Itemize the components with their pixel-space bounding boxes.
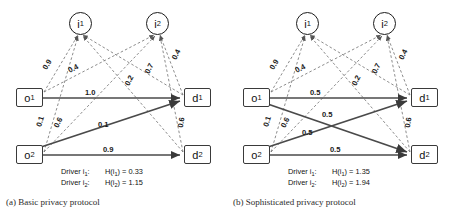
panel-a-driver-legend: Driver i1: H(i1) = 0.33 Driver i2: H(i2)… — [61, 167, 143, 188]
node-i2[interactable]: i2 — [373, 12, 396, 35]
node-i2-subscript: 2 — [157, 19, 161, 28]
node-o1-subscript: 1 — [257, 93, 261, 102]
weight-o2-d1: 0.1 — [98, 120, 108, 129]
panel-b-driver-legend: Driver i1: H(i1) = 1.35 Driver i2: H(i2)… — [288, 167, 370, 188]
legend-row: Driver i1: H(i1) = 0.33 — [61, 167, 143, 178]
node-i1-subscript: 1 — [80, 19, 84, 28]
legend-driver-2: Driver i2: — [61, 178, 105, 189]
weight-o2-d2: 0.9 — [103, 145, 113, 154]
node-d2[interactable]: d2 — [411, 145, 438, 164]
weight-o2-d1: 0.5 — [302, 128, 312, 137]
caption-panel-b: (b) Sophisticated privacy protocol — [233, 197, 356, 207]
weight-d2-i2: 0.6 — [403, 117, 414, 129]
weight-o1-d1: 1.0 — [85, 88, 95, 97]
weight-o1-d2: 0.5 — [322, 110, 332, 119]
node-i2[interactable]: i2 — [146, 12, 169, 35]
node-i1[interactable]: i1 — [69, 12, 92, 35]
edge-d1-i2 — [387, 35, 410, 95]
node-o2-subscript: 2 — [257, 150, 261, 159]
node-i1[interactable]: i1 — [296, 12, 319, 35]
node-o2[interactable]: o2 — [16, 145, 43, 164]
edge-d2-i1 — [83, 36, 183, 152]
panel-sophisticated-privacy-protocol: o1 o2 d1 d2 i1 i2 0.9 0.4 0.1 0.6 0.4 0.… — [227, 0, 454, 215]
edge-o2-i2 — [271, 36, 382, 152]
legend-driver-1: Driver i1: — [61, 167, 105, 178]
two-panel-privacy-protocol-figure: o1 o2 d1 d2 i1 i2 0.9 0.4 0.1 0.6 0.4 0.… — [0, 0, 454, 215]
node-o1[interactable]: o1 — [243, 88, 270, 107]
edge-o2-i2 — [44, 36, 155, 152]
node-o2[interactable]: o2 — [243, 145, 270, 164]
node-d2-subscript: 2 — [198, 150, 202, 159]
node-d2-subscript: 2 — [425, 150, 429, 159]
legend-row: Driver i1: H(i1) = 1.35 — [288, 167, 370, 178]
weight-d2-i2: 0.6 — [176, 117, 187, 129]
node-d2[interactable]: d2 — [184, 145, 211, 164]
legend-row: Driver i2: H(i2) = 1.15 — [61, 178, 143, 189]
edge-o1-i2 — [271, 35, 381, 92]
node-o1-subscript: 1 — [30, 93, 34, 102]
legend-entropy-2: H(i2) = 1.94 — [332, 178, 370, 189]
legend-row: Driver i2: H(i2) = 1.94 — [288, 178, 370, 189]
legend-driver-1: Driver i1: — [288, 167, 332, 178]
node-d1-subscript: 1 — [198, 93, 202, 102]
legend-entropy-1: H(i1) = 0.33 — [105, 167, 143, 178]
weight-o2-d2: 0.5 — [330, 145, 340, 154]
node-o2-subscript: 2 — [30, 150, 34, 159]
node-d1[interactable]: d1 — [411, 88, 438, 107]
legend-driver-2: Driver i2: — [288, 178, 332, 189]
legend-entropy-2: H(i2) = 1.15 — [105, 178, 143, 189]
node-d1-subscript: 1 — [425, 93, 429, 102]
legend-entropy-1: H(i1) = 1.35 — [332, 167, 370, 178]
weight-o1-d1: 0.5 — [310, 88, 320, 97]
node-i1-subscript: 1 — [307, 19, 311, 28]
node-o1[interactable]: o1 — [16, 88, 43, 107]
panel-basic-privacy-protocol: o1 o2 d1 d2 i1 i2 0.9 0.4 0.1 0.6 0.4 0.… — [0, 0, 227, 215]
node-i2-subscript: 2 — [384, 19, 388, 28]
caption-panel-a: (a) Basic privacy protocol — [6, 197, 100, 207]
edge-d1-i1 — [310, 35, 410, 95]
edge-o1-i2 — [44, 35, 154, 92]
edge-d2-i1 — [310, 36, 410, 152]
edge-d1-i2 — [160, 35, 183, 95]
node-d1[interactable]: d1 — [184, 88, 211, 107]
edge-d1-i1 — [83, 35, 183, 95]
